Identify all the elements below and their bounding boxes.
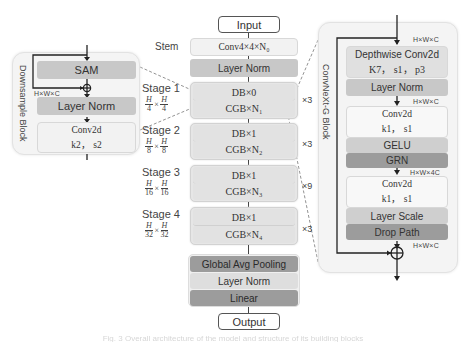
figure-caption: Fig. 3 Overall architecture of the model… [0, 334, 466, 342]
convnext-dim-after-norm: H×W×C [413, 98, 439, 105]
conv1-title: Conv2d [382, 109, 412, 119]
stage-3-db: DB×1 [193, 167, 295, 184]
output-box: Output [218, 313, 280, 330]
stage-3-block: DB×1 CGB×N₃ [190, 165, 298, 202]
global-avg-pooling: Global Avg Pooling [190, 256, 298, 272]
drop-path: Drop Path [346, 224, 448, 240]
layer-scale: Layer Scale [346, 208, 448, 224]
stage-1-db: DB×0 [193, 84, 295, 101]
stem-label: Stem [155, 41, 178, 52]
stage-4-label: Stage 4 [142, 208, 180, 220]
dw-conv-params: K7， s1， p3 [369, 61, 425, 76]
head-layer-norm: Layer Norm [190, 273, 298, 289]
conv2-title: Conv2d [382, 179, 412, 189]
downsample-conv2d: Conv2d k2， s2 [37, 122, 136, 153]
gelu-activation: GELU [346, 138, 448, 153]
convnext-conv2d-2: Conv2d k1， s1 [346, 176, 448, 208]
conv1-params: k1， s1 [382, 121, 412, 135]
convnext-dim-out: H×W×C [413, 242, 439, 249]
conv2-params: k1， s1 [382, 191, 412, 205]
downsample-dim-label: H×W×C [34, 90, 60, 97]
stage-1-cgb: CGB×N₁ [193, 100, 295, 117]
stem-layer-norm: Layer Norm [190, 59, 298, 77]
downsample-layer-norm: Layer Norm [37, 97, 136, 115]
stage-2-db: DB×1 [193, 125, 295, 142]
stage-3-cgb: CGB×N₃ [193, 183, 295, 200]
convnext-dim-in: H×W×C [413, 36, 439, 43]
input-box: Input [218, 16, 280, 33]
linear-layer: Linear [190, 290, 298, 306]
grn-layer: GRN [346, 153, 448, 168]
stage-1-block: DB×0 CGB×N₁ [190, 82, 298, 119]
stage-3-label: Stage 3 [142, 166, 180, 178]
stem-conv-box: Conv4×4×N₀ [190, 38, 298, 56]
stage-4-cgb: CGB×N₄ [193, 226, 295, 243]
downsample-conv-title: Conv2d [71, 125, 101, 135]
sam-module: SAM [37, 61, 136, 79]
stage-4-resolution: H32×H32 [145, 222, 168, 239]
stage-2-cgb: CGB×N₂ [193, 141, 295, 158]
convnext-layer-norm: Layer Norm [346, 79, 448, 96]
stage-3-resolution: H16×H16 [145, 180, 168, 197]
stage-2-block: DB×1 CGB×N₂ [190, 123, 298, 160]
depthwise-conv2d: Depthwise Conv2d K7， s1， p3 [346, 46, 448, 78]
stage-4-db: DB×1 [193, 209, 295, 226]
convnext-dim-expand: H×W×4C [410, 169, 440, 176]
dw-conv-title: Depthwise Conv2d [355, 49, 439, 60]
downsample-conv-params: k2， s2 [71, 137, 101, 151]
stage-4-block: DB×1 CGB×N₄ [190, 207, 298, 245]
convnext-conv2d-1: Conv2d k1， s1 [346, 106, 448, 138]
